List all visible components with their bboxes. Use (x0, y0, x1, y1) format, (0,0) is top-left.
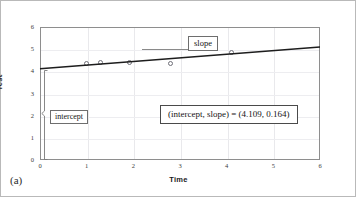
x-tick-3: 3 (171, 162, 189, 169)
x-tick-1: 1 (78, 162, 96, 169)
x-tick-4: 4 (218, 162, 236, 169)
gridline-y-3 (41, 95, 319, 96)
data-point (84, 61, 89, 66)
gridline-y-1 (41, 139, 319, 140)
intercept-annotation: intercept (50, 110, 88, 124)
data-point (98, 60, 103, 65)
panel-caption: (a) (10, 174, 22, 186)
data-point (229, 50, 234, 55)
data-point (168, 61, 173, 66)
chart-figure: 6 5 4 3 2 1 0 0 1 2 3 4 5 6 Test Time sl… (0, 0, 357, 198)
x-tick-6: 6 (311, 162, 329, 169)
y-axis-label: Test (0, 74, 4, 90)
x-tick-0: 0 (31, 162, 49, 169)
parameter-annotation-box: (intercept, slope) = (4.109, 0.164) (160, 105, 298, 124)
y-tick-1: 1 (18, 134, 34, 141)
y-tick-5: 5 (18, 45, 34, 52)
y-tick-3: 3 (18, 90, 34, 97)
x-axis-label: Time (0, 175, 357, 184)
data-point (127, 60, 132, 65)
x-tick-5: 5 (264, 162, 282, 169)
gridline-y-4 (41, 72, 319, 73)
slope-annotation: slope (188, 36, 218, 51)
plot-area (40, 27, 320, 160)
x-tick-2: 2 (124, 162, 142, 169)
y-tick-6: 6 (18, 23, 34, 30)
y-tick-4: 4 (18, 67, 34, 74)
gridline-y-5 (41, 50, 319, 51)
y-tick-2: 2 (18, 112, 34, 119)
